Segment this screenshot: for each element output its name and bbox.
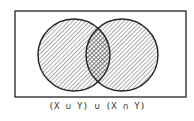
set-expression-caption: (X ∪ Y) ∪ (X ∩ Y): [0, 101, 194, 111]
